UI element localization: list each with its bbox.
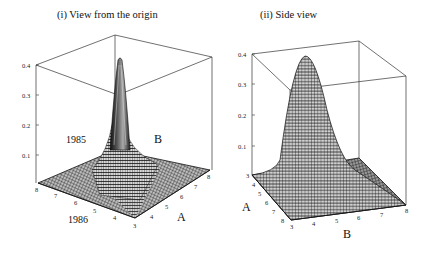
svg-text:6: 6	[265, 199, 269, 206]
z-tick: 0.1	[238, 143, 246, 150]
label-a: A	[177, 210, 186, 224]
z-tick: 0.2	[22, 122, 30, 129]
svg-text:8: 8	[281, 217, 284, 224]
svg-text:4: 4	[150, 213, 154, 220]
panel-view-from-origin: (i) View from the origin	[0, 0, 215, 255]
z-tick: 0.2	[238, 112, 246, 119]
svg-text:5: 5	[258, 190, 261, 197]
label-b: B	[154, 132, 162, 146]
label-a: A	[242, 200, 251, 214]
label-1986: 1986	[68, 214, 88, 225]
svg-text:5: 5	[165, 203, 168, 210]
svg-text:6: 6	[357, 214, 361, 221]
z-tick: 0.1	[22, 152, 30, 159]
label-b: B	[343, 227, 351, 241]
svg-text:7: 7	[54, 192, 58, 199]
svg-text:8: 8	[405, 207, 408, 214]
svg-text:3: 3	[246, 172, 249, 179]
z-tick: 0.3	[22, 92, 30, 99]
svg-text:3: 3	[290, 223, 293, 230]
z-axis-ticks: 0.4 0.3 0.2 0.1	[238, 51, 255, 150]
panel-side-view: (ii) Side view	[215, 0, 429, 255]
svg-text:7: 7	[272, 208, 276, 215]
surface-plot-origin: 0.4 0.3 0.2 0.1 8 7 6 5 4 3 4 5 6 7 8 19…	[0, 0, 215, 255]
svg-text:7: 7	[194, 183, 198, 190]
z-tick: 0.3	[238, 81, 246, 88]
svg-text:6: 6	[180, 193, 184, 200]
svg-text:3: 3	[133, 222, 136, 229]
svg-text:4: 4	[252, 181, 256, 188]
svg-text:6: 6	[74, 199, 78, 206]
svg-text:7: 7	[380, 211, 384, 218]
z-tick: 0.4	[22, 62, 31, 69]
svg-text:5: 5	[93, 207, 96, 214]
surface-hump	[252, 56, 406, 220]
label-1985: 1985	[66, 134, 86, 145]
svg-text:5: 5	[335, 217, 338, 224]
svg-text:8: 8	[35, 186, 38, 193]
svg-text:4: 4	[312, 220, 316, 227]
z-tick: 0.4	[238, 51, 247, 58]
svg-text:8: 8	[207, 173, 210, 180]
svg-text:4: 4	[113, 214, 117, 221]
surface-peak	[110, 58, 130, 150]
z-axis-ticks: 0.4 0.3 0.2 0.1	[22, 62, 39, 159]
surface-plot-side: 0.4 0.3 0.2 0.1 3 4 5 6 7 8 3 4 5 6 7 8 …	[215, 0, 429, 255]
